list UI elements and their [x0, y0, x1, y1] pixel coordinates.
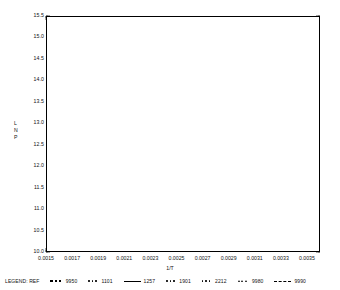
- y-axis-title-char: P: [14, 134, 28, 141]
- x-tick-label: 0.0015: [38, 256, 54, 261]
- x-tick-label: 0.0021: [116, 256, 132, 261]
- y-axis-title: LNP: [14, 120, 28, 141]
- y-tick-label: 12.5: [0, 142, 44, 147]
- legend-entry: 1101: [88, 278, 112, 284]
- legend-entry: 9950: [50, 278, 77, 284]
- legend-title: LEGEND: REF: [5, 278, 39, 284]
- x-tick-label: 0.0027: [195, 256, 211, 261]
- legend-label: 9950: [66, 278, 78, 284]
- y-axis-title-char: L: [14, 120, 28, 127]
- x-tick-label: 0.0031: [247, 256, 263, 261]
- x-tick-label: 0.0025: [169, 256, 185, 261]
- y-tick-label: 11.5: [0, 185, 44, 190]
- y-axis-title-char: N: [14, 127, 28, 134]
- y-tick-label: 15.0: [0, 35, 44, 40]
- legend-label: 2212: [215, 278, 227, 284]
- legend-square-marker-icon: [50, 278, 62, 284]
- x-tick-label: 0.0029: [221, 256, 237, 261]
- y-tick-label: 10.0: [0, 249, 44, 254]
- y-tick-label: 14.0: [0, 78, 44, 83]
- x-tick-label: 0.0033: [273, 256, 289, 261]
- legend-triangle-marker-icon: [238, 278, 249, 284]
- legend-label: 9990: [294, 278, 306, 284]
- x-axis-title: 1/T: [0, 265, 340, 271]
- legend-dot-marker-icon: [88, 278, 98, 284]
- y-tick-label: 11.0: [0, 206, 44, 211]
- y-tick-label: 13.5: [0, 99, 44, 104]
- legend-label: 9980: [252, 278, 264, 284]
- y-tick-label: 12.0: [0, 164, 44, 169]
- x-tick-label: 0.0017: [64, 256, 80, 261]
- chart-legend: LEGEND: REF 9950110112571901221299809990: [0, 275, 340, 287]
- legend-label: 1901: [179, 278, 191, 284]
- chart-page: 15.515.014.514.013.513.012.512.011.511.0…: [0, 0, 340, 290]
- y-tick-label: 10.5: [0, 228, 44, 233]
- x-tick-label: 0.0035: [299, 256, 315, 261]
- legend-solid-line-icon: [124, 278, 141, 284]
- y-tick-label: 14.5: [0, 56, 44, 61]
- legend-entry: 2212: [202, 278, 227, 284]
- y-axis-tick-labels: 15.515.014.514.013.513.012.512.011.511.0…: [0, 0, 44, 290]
- legend-label: 1257: [144, 278, 156, 284]
- legend-entry: 1257: [124, 278, 156, 284]
- legend-dot-marker-icon: [166, 278, 176, 284]
- legend-entry: 9980: [238, 278, 264, 284]
- legend-entry: 1901: [166, 278, 191, 284]
- legend-dashed-line-icon: [274, 278, 291, 284]
- x-tick-label: 0.0023: [142, 256, 158, 261]
- x-tick-label: 0.0019: [90, 256, 106, 261]
- plot-area: [46, 16, 320, 252]
- legend-dot-marker-icon: [202, 278, 212, 284]
- legend-entry: 9990: [274, 278, 306, 284]
- y-tick-label: 15.5: [0, 13, 44, 18]
- legend-label: 1101: [101, 278, 112, 284]
